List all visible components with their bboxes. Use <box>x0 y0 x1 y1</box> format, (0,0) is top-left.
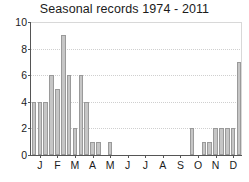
bar <box>90 142 95 155</box>
x-tick-label-3: A <box>89 160 96 171</box>
bar <box>79 75 84 155</box>
x-tick-mark <box>163 155 164 158</box>
x-tick-mark <box>75 155 76 158</box>
x-tick-mark <box>57 155 58 158</box>
bar <box>219 128 224 155</box>
y-tick-label: 8 <box>21 43 27 54</box>
y-tick-label: 10 <box>15 17 27 28</box>
bar <box>32 102 37 155</box>
bar <box>231 128 236 155</box>
bars-layer <box>31 22 242 155</box>
x-tick-label-2: M <box>71 160 80 171</box>
bar <box>43 102 48 155</box>
y-tick-label: 0 <box>21 150 27 161</box>
bar <box>73 128 78 155</box>
bar <box>207 142 212 155</box>
bar <box>213 128 218 155</box>
x-tick-label-8: S <box>177 160 184 171</box>
x-tick-label-9: O <box>194 160 202 171</box>
x-tick-label-0: J <box>37 160 42 171</box>
bar-chart: Seasonal records 1974 - 2011 0246810 JFM… <box>0 0 249 182</box>
x-tick-mark <box>128 155 129 158</box>
x-tick-mark <box>110 155 111 158</box>
x-tick-mark <box>40 155 41 158</box>
x-tick-mark <box>198 155 199 158</box>
bar <box>225 128 230 155</box>
bar <box>55 89 60 156</box>
bar <box>61 35 66 155</box>
x-tick-label-11: D <box>229 160 237 171</box>
x-tick-mark <box>216 155 217 158</box>
x-tick-label-10: N <box>212 160 220 171</box>
x-tick-label-4: M <box>106 160 115 171</box>
chart-title: Seasonal records 1974 - 2011 <box>0 2 249 16</box>
x-tick-mark <box>233 155 234 158</box>
bar <box>49 75 54 155</box>
x-tick-mark <box>145 155 146 158</box>
y-tick-label: 4 <box>21 97 27 108</box>
bar <box>84 102 89 155</box>
x-tick-label-7: A <box>159 160 166 171</box>
bar <box>67 75 72 155</box>
y-tick-label: 2 <box>21 123 27 134</box>
x-tick-label-5: J <box>125 160 130 171</box>
y-tick-mark <box>28 155 31 156</box>
x-tick-mark <box>180 155 181 158</box>
bar <box>190 128 195 155</box>
plot-area: 0246810 JFMAMJJASOND <box>30 22 242 156</box>
bar <box>237 62 242 155</box>
y-tick-label: 6 <box>21 70 27 81</box>
bar <box>96 142 101 155</box>
bar <box>108 142 113 155</box>
bar <box>202 142 207 155</box>
bar <box>38 102 43 155</box>
x-tick-label-6: J <box>143 160 148 171</box>
x-tick-label-1: F <box>54 160 60 171</box>
x-tick-mark <box>93 155 94 158</box>
